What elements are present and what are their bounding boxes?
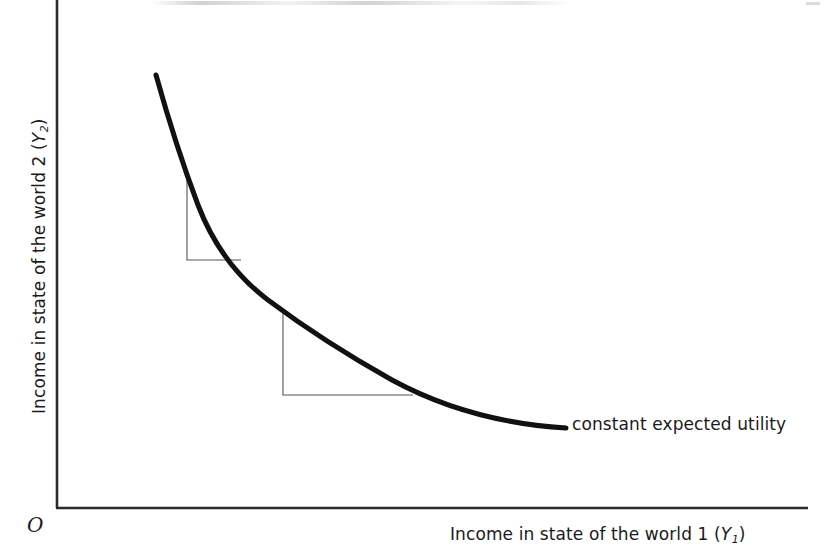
x-axis-label-variable: Y: [721, 524, 731, 544]
x-axis-label-text: Income in state of the world 1 (: [450, 524, 721, 544]
x-axis-label-subscript: 1: [731, 533, 739, 546]
y-axis-label: Income in state of the world 2 (Y2): [29, 118, 51, 414]
y-axis-label-close-paren: ): [29, 118, 49, 125]
slope-triangle-1: [187, 172, 242, 260]
y-axis-label-subscript: 2: [38, 125, 51, 133]
curve-label: constant expected utility: [572, 414, 786, 434]
figure-container: Income in state of the world 2 (Y2) Inco…: [0, 0, 827, 550]
x-axis-label: Income in state of the world 1 (Y1): [450, 524, 746, 546]
constant-expected-utility-curve: [156, 75, 566, 428]
y-axis-label-variable: Y: [29, 133, 49, 143]
x-axis-label-close-paren: ): [739, 524, 746, 544]
plot-area: [0, 0, 827, 550]
y-axis-label-text: Income in state of the world 2 (: [29, 143, 49, 414]
origin-label: O: [27, 513, 43, 537]
